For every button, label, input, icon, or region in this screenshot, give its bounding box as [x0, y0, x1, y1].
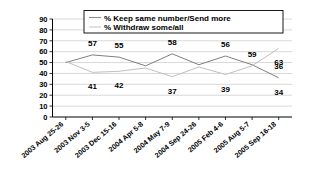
y-axis-label: 70: [39, 37, 47, 46]
y-axis-label: 40: [39, 69, 47, 78]
y-axis-label: 90: [39, 15, 47, 24]
legend-label-keep-same: % Keep same number/Send more: [104, 14, 231, 23]
y-axis-labels: 0102030405060708090: [39, 15, 47, 122]
y-axis-label: 50: [39, 58, 47, 67]
y-axis-label: 30: [39, 80, 47, 89]
data-label: 59: [248, 50, 257, 59]
y-axis-label: 20: [39, 91, 47, 100]
data-label: 34: [274, 88, 283, 97]
legend-label-withdraw: % Withdraw some/all: [104, 23, 184, 32]
data-label: 42: [115, 81, 124, 90]
data-label: 56: [221, 40, 230, 49]
data-label: 41: [88, 82, 97, 91]
data-label: 57: [88, 39, 97, 48]
chart-container: 0102030405060708090 57555856364142373963…: [0, 0, 322, 191]
y-axis-label: 80: [39, 26, 47, 35]
y-axis-label: 60: [39, 47, 47, 56]
chart-legend: % Keep same number/Send more % Withdraw …: [84, 11, 283, 34]
y-axis-label: 0: [43, 113, 47, 122]
data-label: 55: [115, 41, 124, 50]
y-axis-label: 10: [39, 102, 47, 111]
data-label: 58: [168, 38, 177, 47]
data-label: 39: [221, 85, 230, 94]
line-chart: 0102030405060708090 57555856364142373963…: [0, 0, 322, 191]
data-label: 37: [168, 87, 177, 96]
data-label: 63: [274, 58, 283, 67]
